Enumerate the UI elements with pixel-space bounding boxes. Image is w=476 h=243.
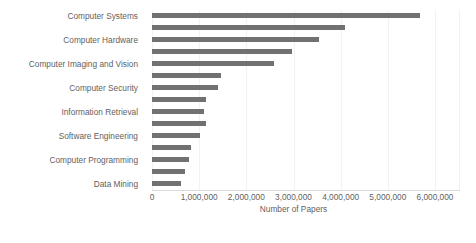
bar [152,13,420,18]
bar [152,97,206,102]
bar [152,49,292,54]
bar-row [152,142,460,154]
bar [152,181,181,186]
category-label: Data Mining [94,179,138,189]
category-label: Information Retrieval [61,107,138,117]
bar-row [152,82,460,94]
bar-row [152,178,460,190]
category-axis-labels: Computer SystemsComputer HardwareCompute… [0,10,146,190]
bar [152,121,206,126]
x-axis-title: Number of Papers [152,204,435,214]
bar-row [152,58,460,70]
bar-row [152,34,460,46]
bar [152,73,221,78]
bar-row [152,154,460,166]
category-label: Computer Imaging and Vision [29,59,138,69]
bar-row [152,70,460,82]
bar-chart-figure: Computer SystemsComputer HardwareCompute… [0,0,476,243]
bar-series [152,10,460,190]
bar-row [152,10,460,22]
bar [152,25,345,30]
bar [152,61,274,66]
category-label: Computer Hardware [63,35,138,45]
bar-row [152,130,460,142]
bar-row [152,118,460,130]
bar-row [152,106,460,118]
bar-row [152,46,460,58]
bar [152,37,319,42]
x-axis-line [152,190,460,191]
bar-row [152,22,460,34]
category-label: Computer Programming [49,155,138,165]
bar [152,85,218,90]
bar [152,169,185,174]
category-label: Computer Security [69,83,138,93]
bar [152,145,191,150]
bar-row [152,166,460,178]
bar-row [152,94,460,106]
bar [152,133,200,138]
plot-area [152,10,460,190]
x-tick-label: 1,000,000 [181,192,218,202]
bar [152,157,189,162]
x-tick-label: 3,000,000 [275,192,312,202]
x-tick-label: 5,000,000 [369,192,406,202]
category-label: Computer Systems [67,11,138,21]
x-tick-label: 6,000,000 [417,192,454,202]
bar [152,109,204,114]
x-tick-label: 2,000,000 [228,192,265,202]
x-tick-label: 0 [150,192,155,202]
category-label: Software Engineering [59,131,138,141]
x-tick-label: 4,000,000 [322,192,359,202]
